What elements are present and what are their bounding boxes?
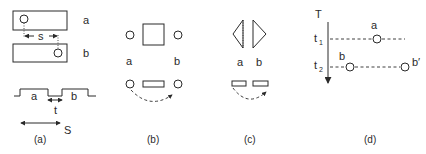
bar-b xyxy=(253,81,268,86)
label-a: a xyxy=(126,55,133,67)
diagram-canvas: a s b a b t S (a) a b (b) a xyxy=(0,0,426,154)
pulse-b-label: b xyxy=(71,90,77,102)
rect-a-label: a xyxy=(83,14,90,26)
bar-a xyxy=(232,81,246,86)
span-label: S xyxy=(64,124,71,136)
label-a: a xyxy=(237,56,244,68)
circle-a xyxy=(20,15,28,23)
triangle-left xyxy=(233,20,243,48)
point-b-prime-label: b′ xyxy=(412,56,420,68)
label-b: b xyxy=(174,55,180,67)
circle-b-top xyxy=(174,31,182,39)
label-b: b xyxy=(256,56,262,68)
caption-a: (a) xyxy=(34,134,46,145)
flat-rect xyxy=(143,81,164,87)
circle-b xyxy=(54,49,62,57)
caption-c: (c) xyxy=(244,134,256,145)
motion-arc xyxy=(233,88,266,99)
motion-arc xyxy=(131,90,172,101)
point-b-label: b xyxy=(339,50,345,62)
t2-subscript: 2 xyxy=(319,66,323,73)
caption-b: (b) xyxy=(147,134,159,145)
t2-label: t xyxy=(314,59,317,71)
t1-label: t xyxy=(314,32,317,44)
point-a-label: a xyxy=(371,19,378,31)
shift-label: s xyxy=(38,30,44,42)
panel-d: T t 1 a t 2 b b′ (d) xyxy=(314,8,420,145)
rect-b-label: b xyxy=(83,47,89,59)
point-b xyxy=(346,63,354,71)
circle-a-bottom xyxy=(126,80,134,88)
pulse-train xyxy=(14,89,96,96)
triangle-right xyxy=(253,20,266,48)
panel-a: a s b a b t S (a) xyxy=(13,11,96,145)
gap-label: t xyxy=(54,104,57,116)
circle-a-top xyxy=(126,31,134,39)
caption-d: (d) xyxy=(364,134,376,145)
circle-b-bottom xyxy=(174,80,182,88)
panel-c: a b (c) xyxy=(232,20,268,145)
axis-label-T: T xyxy=(315,8,322,20)
point-a xyxy=(373,35,381,43)
pulse-a-label: a xyxy=(31,90,38,102)
point-b-prime xyxy=(401,63,409,71)
square xyxy=(143,24,164,45)
t1-subscript: 1 xyxy=(319,39,323,46)
panel-b: a b (b) xyxy=(126,24,182,145)
